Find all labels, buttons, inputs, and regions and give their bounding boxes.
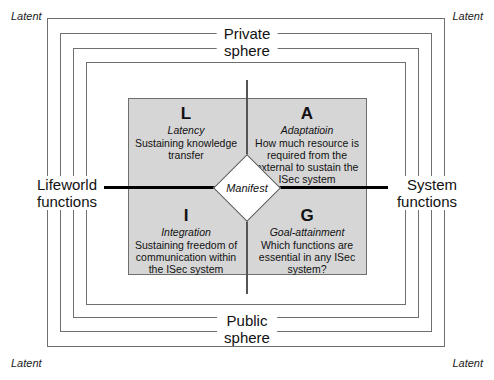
corner-label-latent-top-right: Latent (452, 11, 483, 22)
quadrant-integration-description: Sustaining freedom of communication with… (130, 239, 242, 275)
quadrant-latency-letter: L (130, 104, 242, 123)
center-diamond-manifest: Manifest (213, 154, 281, 222)
axis-label-lifeworld-line1: Lifeworld (37, 176, 97, 193)
axis-label-public-sphere: Public sphere (217, 312, 277, 346)
center-diamond-label: Manifest (213, 182, 281, 194)
axis-label-private-line1: Private (224, 25, 271, 42)
axis-label-lifeworld-line2: functions (37, 193, 97, 210)
corner-label-latent-bottom-left: Latent (11, 358, 42, 369)
diagram-canvas: Latent Latent Latent Latent Private sphe… (0, 0, 494, 380)
quadrant-integration-name: Integration (130, 226, 242, 238)
quadrant-adaptation-name: Adaptatioin (251, 124, 363, 136)
corner-label-latent-bottom-right: Latent (452, 358, 483, 369)
axis-label-system-line1: System (397, 176, 457, 193)
quadrant-adaptation-letter: A (251, 104, 363, 123)
axis-label-system-line2: functions (397, 193, 457, 210)
quadrant-latency: L Latency Sustaining knowledge transfer (130, 104, 242, 161)
axis-label-public-line1: Public (224, 312, 270, 329)
axis-label-system-functions: System functions (397, 176, 457, 210)
axis-label-public-line2: sphere (224, 329, 270, 346)
axis-label-lifeworld-functions: Lifeworld functions (37, 176, 97, 210)
axis-label-private-line2: sphere (224, 42, 271, 59)
axis-label-private-sphere: Private sphere (217, 25, 278, 59)
quadrant-goal-attainment-name: Goal-attainment (251, 226, 363, 238)
quadrant-latency-name: Latency (130, 124, 242, 136)
quadrant-goal-attainment-description: Which functions are essential in any ISe… (251, 239, 363, 275)
corner-label-latent-top-left: Latent (11, 11, 42, 22)
